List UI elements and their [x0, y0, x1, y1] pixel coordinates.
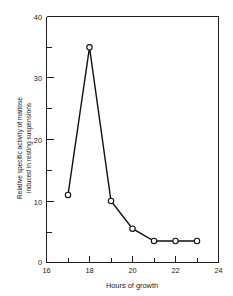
data-point [108, 198, 113, 203]
y-tick-label-20: 20 [34, 136, 42, 145]
y-tick-label-0: 0 [38, 258, 42, 267]
y-tick-label-30: 30 [34, 74, 42, 83]
data-point [65, 192, 70, 197]
x-tick-label-24: 24 [214, 266, 222, 275]
data-point [151, 238, 156, 243]
line-chart: 0 10 20 30 40 16 18 20 22 24 Hours of gr… [0, 0, 233, 296]
y-axis-title-line1: Relative specific activity of maltose [16, 97, 24, 199]
x-tick-label-16: 16 [42, 266, 50, 275]
data-point [194, 238, 199, 243]
x-tick-label-18: 18 [85, 266, 93, 275]
y-tick-label-40: 40 [34, 13, 42, 22]
chart-background [0, 0, 233, 296]
x-axis-title: Hours of growth [106, 281, 158, 290]
data-point [173, 238, 178, 243]
x-tick-label-22: 22 [171, 266, 179, 275]
x-tick-label-20: 20 [128, 266, 136, 275]
y-axis-title-line2: induced in resting suspensions [25, 102, 33, 193]
data-point [130, 226, 135, 231]
y-axis-title: Relative specific activity of maltose in… [16, 97, 33, 199]
y-tick-label-10: 10 [34, 198, 42, 207]
data-point [87, 45, 92, 50]
chart-figure: 0 10 20 30 40 16 18 20 22 24 Hours of gr… [0, 0, 233, 296]
